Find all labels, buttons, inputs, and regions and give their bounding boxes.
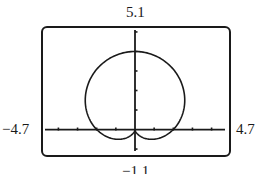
plot-area [0, 0, 259, 174]
axes [45, 30, 225, 151]
